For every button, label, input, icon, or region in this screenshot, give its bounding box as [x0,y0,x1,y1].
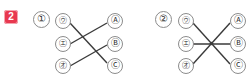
node-left-a[interactable]: ㋒ [178,13,194,29]
link-i-to-A [70,23,107,44]
node-right-C[interactable]: Ⓒ [107,58,123,74]
link-a-to-C [70,23,107,63]
node-left-u[interactable]: ㋔ [178,58,194,74]
node-left-i[interactable]: ㋓ [55,36,71,52]
node-left-a[interactable]: ㋒ [55,13,71,29]
diagram-2: ㋒ ㋓ ㋔ Ⓐ Ⓑ Ⓒ [178,0,247,82]
question-number-badge: 2 [4,10,18,24]
node-right-C[interactable]: Ⓒ [230,58,246,74]
worksheet-figure: 2 ① ㋒ ㋓ ㋔ Ⓐ Ⓑ Ⓒ ② ㋒ ㋓ ㋔ Ⓐ Ⓑ [0,0,247,82]
center-intersection-dot [210,42,214,46]
problem-number-1: ① [33,11,50,28]
node-right-B[interactable]: Ⓑ [230,36,246,52]
node-left-i[interactable]: ㋓ [178,36,194,52]
diagram-1: ㋒ ㋓ ㋔ Ⓐ Ⓑ Ⓒ [55,0,127,82]
node-left-u[interactable]: ㋔ [55,58,71,74]
link-u-to-B [70,45,107,66]
node-right-B[interactable]: Ⓑ [107,36,123,52]
node-right-A[interactable]: Ⓐ [107,13,123,29]
problem-number-2: ② [155,11,172,28]
node-right-A[interactable]: Ⓐ [230,13,246,29]
